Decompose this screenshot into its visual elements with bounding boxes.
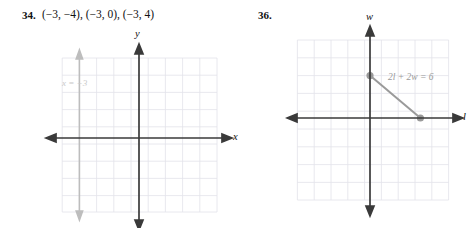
line-label-34: x = −3	[62, 78, 87, 88]
equation-label-36: 2l + 2w = 6	[388, 72, 434, 82]
graph-36-svg	[285, 12, 471, 222]
axes-36	[287, 26, 463, 216]
x-axis-label-34: x	[233, 131, 238, 142]
problem-number-36: 36.	[258, 9, 272, 21]
y-axis-label-34: y	[135, 28, 140, 39]
w-axis-label-36: w	[366, 11, 373, 22]
coordinate-plane-34: y x x = −3	[40, 28, 240, 228]
l-axis-label-36: l	[463, 111, 466, 122]
grid-lines-36	[297, 40, 448, 200]
problem-number-34: 34.	[22, 9, 36, 21]
problem-prompt-34: (−3, −4), (−3, 0), (−3, 4)	[42, 8, 154, 20]
axes-34	[46, 44, 232, 228]
graph-34-svg	[40, 28, 240, 228]
coordinate-plane-36: w l 2l + 2w = 6	[285, 12, 471, 222]
